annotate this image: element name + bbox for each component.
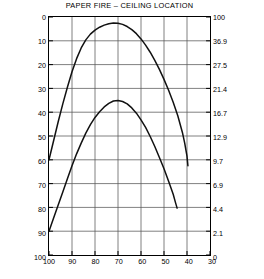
y-axis-right-tick-label: 9.7 [213, 157, 223, 166]
chart-figure: PAPER FIRE – CEILING LOCATION 0102030405… [0, 0, 264, 279]
y-axis-left-tick-label: 80 [38, 205, 46, 214]
y-axis-left-title: PERCENT LIGHT TRANSMISSION 5 FT (1.5 m) [2, 0, 24, 38]
y-axis-right-tick-label: 36.9 [213, 37, 227, 46]
y-axis-right-tick-label: 12.9 [213, 133, 227, 142]
plot-area: 0102030405060708090100 10036.927.521.416… [48, 16, 211, 256]
curve-upper-curve [49, 23, 188, 166]
y-axis-left-tick-label: 60 [38, 157, 46, 166]
x-axis-tick-label: 60 [138, 257, 146, 266]
y-axis-left-tick-label: 40 [38, 109, 46, 118]
y-axis-right-tick-label: 4.4 [213, 205, 223, 214]
y-axis-right-tick-label: 2.1 [213, 229, 223, 238]
x-axis-tick-label: 50 [161, 257, 169, 266]
x-axis-tick-label: 80 [92, 257, 100, 266]
y-axis-right-tick-label: 100 [213, 13, 225, 22]
data-curves [49, 17, 210, 255]
y-axis-left-tick-label: 90 [38, 229, 46, 238]
y-axis-right-title: PERCENT OBSCURATION PER FT [241, 0, 259, 34]
y-axis-right-tick-label: 16.7 [213, 109, 227, 118]
y-axis-left-tick-label: 10 [38, 37, 46, 46]
y-axis-left-tick-label: 0 [42, 13, 46, 22]
x-axis-tick-label: 70 [115, 257, 123, 266]
y-axis-right-tick-label: 6.9 [213, 181, 223, 190]
y-axis-right-tick-label: 21.4 [213, 85, 227, 94]
y-axis-left-tick-label: 20 [38, 61, 46, 70]
x-axis-tick-label: 30 [208, 257, 216, 266]
y-axis-left-tick-label: 70 [38, 181, 46, 190]
y-axis-left-tick-label: 30 [38, 85, 46, 94]
chart-title: PAPER FIRE – CEILING LOCATION [48, 1, 211, 10]
x-axis-tick-label: 90 [68, 257, 76, 266]
curve-lower-curve [49, 101, 177, 232]
y-axis-right-tick-label: 27.5 [213, 61, 227, 70]
y-axis-left-tick-label: 50 [38, 133, 46, 142]
x-axis-tick-label: 100 [43, 257, 55, 266]
x-axis-tick-label: 40 [185, 257, 193, 266]
